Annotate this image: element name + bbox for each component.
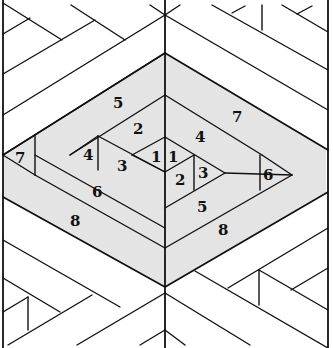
strip-label-5-lower: 5 xyxy=(197,198,207,216)
upper-strip-line xyxy=(165,5,180,15)
strip-label-5-upper: 5 xyxy=(113,94,123,112)
strip-label-8-left: 8 xyxy=(70,212,80,230)
lower-strip-line xyxy=(195,271,328,348)
strip-label-7-left: 7 xyxy=(15,149,25,167)
lower-strip-line xyxy=(165,293,250,345)
lower-strip-line xyxy=(8,295,92,345)
strip-label-3-left: 3 xyxy=(117,157,127,175)
strip-label-6-right: 6 xyxy=(263,166,273,184)
lower-strip-line xyxy=(140,330,165,345)
upper-strip-line xyxy=(212,5,328,70)
upper-strip-line xyxy=(71,5,125,40)
strip-label-8-right: 8 xyxy=(218,221,228,239)
upper-strip-line xyxy=(297,6,312,14)
upper-strip-line xyxy=(3,18,30,34)
upper-strip-line xyxy=(3,3,62,40)
upper-strip-line xyxy=(232,6,245,13)
strip-label-2-upper: 2 xyxy=(133,120,143,138)
lower-strip-line xyxy=(165,330,185,345)
lower-strip-line xyxy=(259,270,328,310)
upper-strip-line xyxy=(3,20,95,74)
log-cabin-rhombus-diagram: 5 7 2 4 7 4 3 1 1 2 3 6 6 5 8 8 xyxy=(0,0,333,348)
strip-label-4-left: 4 xyxy=(83,146,93,164)
strip-label-2-lower: 2 xyxy=(175,171,185,189)
strip-label-3-right: 3 xyxy=(198,164,208,182)
upper-strip-line xyxy=(150,5,165,15)
lower-strip-line xyxy=(291,268,328,290)
strip-label-7-upper: 7 xyxy=(232,108,242,126)
strip-label-1-left: 1 xyxy=(151,148,161,166)
strip-label-1-right: 1 xyxy=(168,148,178,166)
lower-strip-line xyxy=(3,297,28,312)
strip-label-4-upper: 4 xyxy=(195,128,205,146)
strip-label-6-left: 6 xyxy=(92,183,102,201)
